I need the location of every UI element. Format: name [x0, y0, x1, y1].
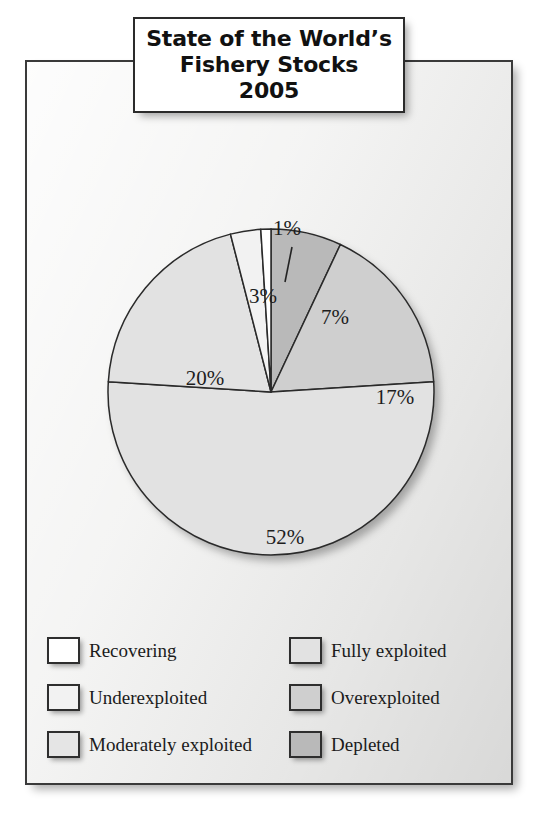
legend-swatch-icon — [47, 637, 80, 664]
legend-item-label: Depleted — [331, 734, 400, 756]
legend-item-moderately-exploited: Moderately exploited — [47, 731, 289, 758]
pie-chart-svg: 7%17%52%20%3%1% — [27, 62, 515, 622]
legend-item-underexploited: Underexploited — [47, 684, 289, 711]
title-line-1: State of the World’s — [146, 26, 392, 52]
legend-swatch-icon — [289, 731, 322, 758]
legend-item-label: Underexploited — [89, 687, 207, 709]
figure-frame: 7%17%52%20%3%1% RecoveringFully exploite… — [25, 60, 513, 785]
legend-item-depleted: Depleted — [289, 731, 497, 758]
chart-title-box: State of the World’s Fishery Stocks 2005 — [133, 17, 405, 113]
legend-swatch-icon — [47, 684, 80, 711]
legend-item-fully-exploited: Fully exploited — [289, 637, 497, 664]
pie-label-recovering: 1% — [273, 216, 301, 240]
chart-legend: RecoveringFully exploitedUnderexploitedO… — [47, 627, 497, 768]
legend-swatch-icon — [47, 731, 80, 758]
legend-swatch-icon — [289, 684, 322, 711]
legend-item-label: Overexploited — [331, 687, 440, 709]
title-line-2: Fishery Stocks — [180, 52, 359, 78]
legend-swatch-icon — [289, 637, 322, 664]
legend-item-recovering: Recovering — [47, 637, 289, 664]
pie-label-overexploited: 17% — [376, 385, 415, 409]
pie-label-fully-exploited: 52% — [266, 525, 305, 549]
legend-item-label: Fully exploited — [331, 640, 447, 662]
pie-label-depleted: 7% — [321, 305, 349, 329]
title-line-3: 2005 — [239, 78, 299, 104]
legend-item-label: Moderately exploited — [89, 734, 252, 756]
pie-label-moderately-exploited: 20% — [186, 366, 225, 390]
legend-item-label: Recovering — [89, 640, 177, 662]
pie-chart: 7%17%52%20%3%1% — [27, 62, 515, 622]
legend-item-overexploited: Overexploited — [289, 684, 497, 711]
pie-label-underexploited: 3% — [249, 284, 277, 308]
